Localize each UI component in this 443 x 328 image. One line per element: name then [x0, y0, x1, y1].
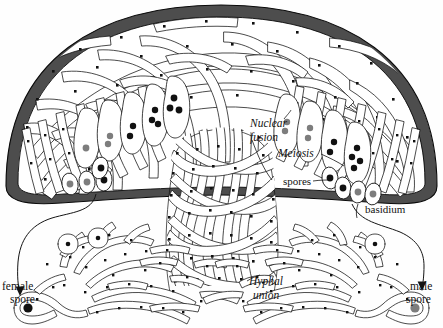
basidium-left-5	[163, 76, 190, 138]
basidium-left-2	[97, 100, 124, 161]
male-mycelium-network	[203, 222, 429, 324]
label-basidium: basidium	[365, 203, 406, 215]
label-spores: spores	[283, 175, 311, 187]
leader-basidium	[356, 204, 358, 218]
basidiomycete-life-cycle-figure: Nuclear fusion Meiosis spores basidium H…	[0, 0, 443, 328]
label-meiosis: Meiosis	[277, 147, 314, 159]
label-nuclear-fusion-line2: fusion	[250, 131, 278, 144]
label-female-spore-line2: spore	[10, 293, 35, 306]
label-nuclear-fusion-line1: Nuclear	[249, 117, 288, 129]
label-male-spore-line1: male	[410, 280, 432, 292]
life-cycle-diagram-canvas: Nuclear fusion Meiosis spores basidium H…	[0, 0, 443, 328]
label-hyphal-union-line2: union	[253, 289, 279, 301]
basidium-right-4	[344, 122, 371, 184]
basidium-right-3	[321, 110, 348, 172]
label-female-spore-line1: female	[2, 280, 33, 292]
label-male-spore-line2: spore	[406, 293, 431, 306]
label-hyphal-union-line1: Hyphal	[248, 275, 283, 288]
